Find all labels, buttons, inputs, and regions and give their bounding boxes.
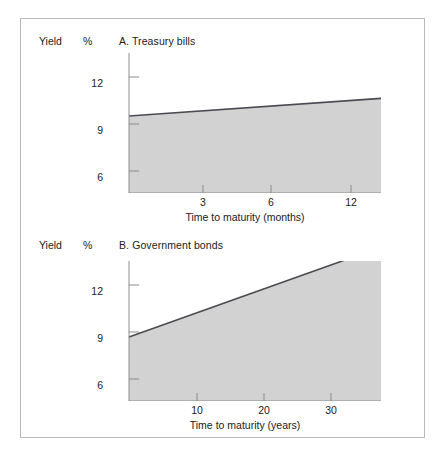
panel-a-area-fill bbox=[129, 97, 381, 193]
panel-b-xtick-20: 20 bbox=[251, 404, 277, 416]
panel-a-xtick-12: 12 bbox=[338, 196, 364, 208]
panel-b-yield-label: Yield bbox=[39, 239, 62, 251]
panel-a-chart-svg bbox=[109, 53, 381, 193]
panel-b-title: B. Government bonds bbox=[119, 239, 223, 251]
panel-b-ytick-6: 6 bbox=[77, 379, 103, 391]
panel-a-title: A. Treasury bills bbox=[119, 35, 195, 47]
panel-a-yield-label: Yield bbox=[39, 35, 62, 47]
panel-a-percent-label: % bbox=[83, 35, 92, 47]
panel-b-plot bbox=[109, 261, 381, 401]
figure-yield-curves: Yield % A. Treasury bills 12 9 6 bbox=[0, 0, 447, 457]
panel-a-xaxis-title: Time to maturity (months) bbox=[109, 211, 381, 223]
panel-b-xtick-10: 10 bbox=[184, 404, 210, 416]
panel-b-percent-label: % bbox=[83, 239, 92, 251]
panel-b-ytick-12: 12 bbox=[77, 285, 103, 297]
panel-a-ytick-12: 12 bbox=[77, 77, 103, 89]
panel-a-ytick-6: 6 bbox=[77, 171, 103, 183]
panel-b-xtick-30: 30 bbox=[318, 404, 344, 416]
panel-a-plot bbox=[109, 53, 381, 193]
panel-b-xaxis-title: Time to maturity (years) bbox=[109, 419, 381, 431]
panel-a-xtick-3: 3 bbox=[190, 196, 216, 208]
figure-frame: Yield % A. Treasury bills 12 9 6 bbox=[20, 18, 425, 438]
panel-government-bonds: Yield % B. Government bonds 12 9 6 bbox=[21, 227, 426, 439]
panel-b-chart-svg bbox=[109, 261, 381, 401]
panel-treasury-bills: Yield % A. Treasury bills 12 9 6 bbox=[21, 23, 426, 228]
panel-b-ytick-9: 9 bbox=[77, 332, 103, 344]
panel-a-xtick-6: 6 bbox=[258, 196, 284, 208]
panel-a-ytick-9: 9 bbox=[77, 124, 103, 136]
panel-b-area-fill bbox=[129, 261, 381, 401]
